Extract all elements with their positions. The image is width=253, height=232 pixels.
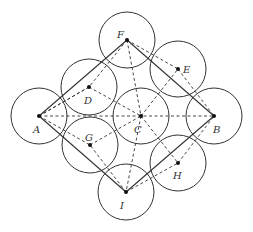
dashed-segment-FD [89,40,127,87]
solid-segment-AF [39,40,127,116]
dashed-segment-AG [39,116,90,145]
label-A: A [32,124,40,135]
label-H: H [172,170,182,181]
label-F: F [116,29,125,40]
dashed-segment-CE [141,69,178,116]
point-E [176,67,180,71]
label-B: B [212,124,220,135]
label-C: C [134,124,142,135]
point-H [176,161,180,165]
dashed-segment-EB [178,69,214,116]
point-B [212,114,216,118]
point-G [88,143,92,147]
dashed-segment-DC [89,87,141,116]
point-D [87,85,91,89]
label-D: D [83,95,92,106]
point-A [37,114,41,118]
geometry-diagram: ABCDEFGHI [0,0,253,232]
dashed-segment-IG [90,145,126,192]
solid-segment-IA [39,116,126,192]
point-I [124,190,128,194]
solid-segment-FB [127,40,214,116]
dashed-segment-IH [126,163,178,192]
point-F [125,38,129,42]
point-C [139,114,143,118]
dashed-segment-FC [127,40,141,116]
label-E: E [182,64,191,75]
dashed-segment-FE [127,40,178,69]
label-G: G [85,132,93,143]
dashed-segment-HB [178,116,214,163]
label-I: I [119,200,125,211]
dashed-segment-DA [39,87,89,116]
circles-diagram-svg: ABCDEFGHI [0,0,253,232]
dashed-segment-CH [141,116,178,163]
